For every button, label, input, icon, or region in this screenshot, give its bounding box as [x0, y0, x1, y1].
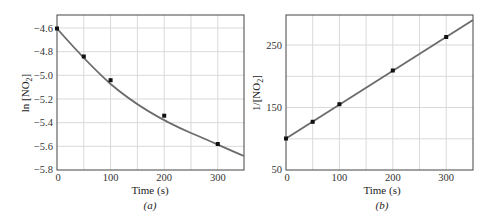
y-tick: −4.8	[34, 46, 53, 57]
x-tick: 200	[385, 172, 401, 183]
chart-b: 250 150 50 0 100 200 300 Time (s) (b) 1/…	[250, 15, 473, 212]
caption-a: (a)	[144, 199, 157, 212]
y-tick: −5.6	[34, 141, 53, 152]
x-tick: 300	[210, 172, 226, 183]
y-ticks-b: 250 150 50	[266, 40, 282, 176]
y-tick: 150	[266, 102, 282, 113]
data-point	[284, 137, 288, 141]
x-ticks-b: 0 100 200 300	[284, 172, 454, 183]
x-tick: 100	[103, 172, 119, 183]
x-tick: 0	[55, 172, 60, 183]
y-tick: 50	[272, 164, 283, 175]
x-tick: 0	[284, 172, 289, 183]
fit-curve-a	[57, 29, 244, 157]
y-axis-label-b: 1/[NO2]	[250, 75, 265, 111]
x-ticks-a: 0 100 200 300	[55, 172, 225, 183]
y-tick: −4.6	[34, 23, 53, 34]
data-point	[109, 78, 113, 82]
data-point	[55, 27, 59, 31]
x-tick: 300	[438, 172, 454, 183]
x-axis-label-b: Time (s)	[363, 184, 401, 197]
x-axis-label-a: Time (s)	[131, 184, 169, 197]
caption-b: (b)	[376, 199, 389, 212]
y-axis-label-a: ln [NO2]	[19, 74, 34, 113]
data-point	[162, 114, 166, 118]
data-point	[311, 120, 315, 124]
x-tick: 100	[332, 172, 348, 183]
grid-a	[57, 15, 244, 170]
y-tick: −5.8	[34, 164, 53, 175]
data-point	[337, 102, 341, 106]
figure: −4.6 −4.8 −5.0 −5.2 −5.4 −5.6 −5.8 0 100…	[0, 0, 488, 224]
x-tick: 200	[156, 172, 172, 183]
data-point	[444, 35, 448, 39]
y-tick: −5.0	[34, 70, 53, 81]
data-point	[391, 69, 395, 73]
y-tick: −5.4	[34, 117, 54, 128]
y-tick: 250	[266, 40, 282, 51]
data-point	[216, 142, 220, 146]
y-ticks-a: −4.6 −4.8 −5.0 −5.2 −5.4 −5.6 −5.8	[34, 23, 54, 176]
y-tick: −5.2	[34, 94, 53, 105]
chart-a: −4.6 −4.8 −5.0 −5.2 −5.4 −5.6 −5.8 0 100…	[19, 15, 244, 212]
data-point	[82, 55, 86, 59]
